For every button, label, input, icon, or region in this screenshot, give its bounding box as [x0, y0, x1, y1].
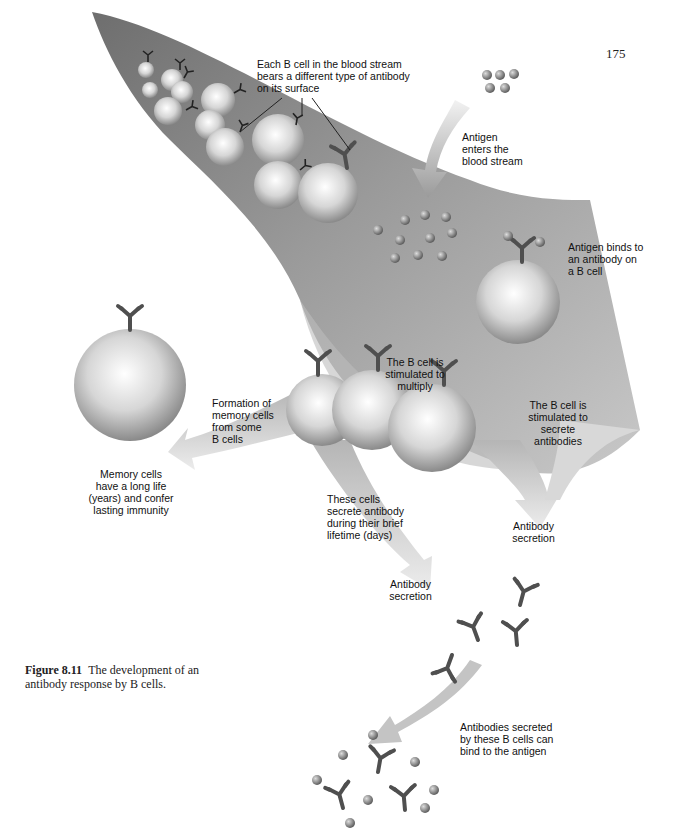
memory-cell [74, 306, 186, 441]
free-antibodies [433, 579, 538, 682]
label-b-cells-bloodstream: Each B cell in the blood stream bears a … [257, 58, 410, 94]
antigen-particles-incoming [482, 69, 519, 93]
figure-number: Figure 8.11 [25, 663, 82, 677]
label-stimulated-secrete: The B cell is stimulated to secrete anti… [518, 399, 598, 447]
antibody-antigen-complexes [312, 730, 439, 828]
label-memory-formation: Formation of memory cells from some B ce… [212, 397, 274, 445]
label-memory-cells: Memory cells have a long life (years) an… [76, 468, 186, 516]
label-antibody-secretion-center: Antibody secretion [383, 578, 438, 602]
label-stimulated-multiply: The B cell is stimulated to multiply [375, 356, 455, 392]
label-antigen-enters: Antigen enters the blood stream [462, 131, 523, 167]
page-number: 175 [606, 46, 626, 62]
label-brief-lifetime: These cells secrete antibody during thei… [327, 493, 404, 541]
label-antibodies-bind: Antibodies secreted by these B cells can… [460, 721, 553, 757]
figure-caption: Figure 8.11 The development of an antibo… [25, 663, 235, 691]
label-antigen-binds: Antigen binds to an antibody on a B cell [568, 241, 643, 277]
label-antibody-secretion-right: Antibody secretion [506, 520, 561, 544]
